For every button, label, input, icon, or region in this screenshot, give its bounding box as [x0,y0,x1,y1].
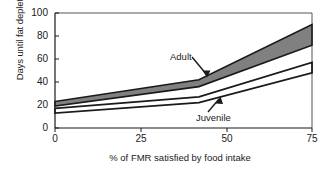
series-band-adult [55,25,312,107]
plot-area [0,0,328,173]
annotation-adult: Adult [170,52,192,62]
annotation-juvenile: Juvenile [196,113,231,123]
adult-leader-arrow [192,57,211,78]
chart-figure: Days until fat depletion 100 80 60 40 20… [0,0,328,173]
